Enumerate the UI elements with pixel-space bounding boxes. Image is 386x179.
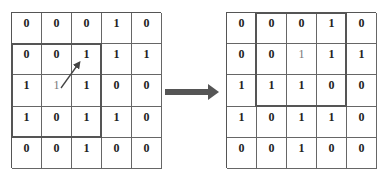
grid-cell: 1	[102, 107, 132, 138]
grid-cell: 0	[257, 44, 287, 75]
grid-cell: 1	[257, 75, 287, 106]
grid-cell: 0	[42, 138, 72, 169]
grid-cell: 1	[317, 13, 347, 44]
grid-cell: 0	[42, 44, 72, 75]
grid-cell: 0	[12, 138, 42, 169]
grid-cell: 0	[227, 138, 257, 169]
grid-cell: 0	[12, 44, 42, 75]
grid-cell: 0	[12, 13, 42, 44]
grid-cell: 0	[257, 13, 287, 44]
grid-cell: 1	[12, 75, 42, 106]
grid-cell: 0	[317, 138, 347, 169]
grid-cell: 0	[347, 75, 377, 106]
grid-cell: 1	[287, 107, 317, 138]
left-grid: 0001000111111001011000100	[11, 12, 161, 168]
grid-cell: 1	[287, 44, 317, 75]
grid-cell: 1	[72, 107, 102, 138]
grid-cell: 0	[102, 138, 132, 169]
grid-cell: 0	[132, 75, 162, 106]
grid-cell: 1	[72, 75, 102, 106]
grid-cell: 0	[227, 44, 257, 75]
grid-cell: 1	[102, 44, 132, 75]
grid-cell: 0	[132, 13, 162, 44]
grid-cell: 1	[317, 107, 347, 138]
grid-cell: 1	[42, 75, 72, 106]
grid-cell: 0	[102, 75, 132, 106]
grid-cell: 1	[287, 138, 317, 169]
grid-cell: 0	[227, 13, 257, 44]
grid-cell: 1	[287, 75, 317, 106]
grid-cell: 0	[317, 75, 347, 106]
grid-cell: 1	[347, 44, 377, 75]
grid-cell: 1	[317, 44, 347, 75]
grid-cell: 0	[132, 138, 162, 169]
grid-cell: 0	[132, 107, 162, 138]
grid-cell: 0	[287, 13, 317, 44]
grid-cell: 0	[347, 138, 377, 169]
grid-cell: 1	[72, 44, 102, 75]
right-grid: 0001000111111001011000100	[226, 12, 376, 168]
grid-cell: 0	[42, 107, 72, 138]
grid-cell: 1	[102, 13, 132, 44]
grid-cell: 0	[72, 13, 102, 44]
grid-cell: 0	[347, 107, 377, 138]
grid-cell: 0	[257, 138, 287, 169]
grid-cell: 1	[12, 107, 42, 138]
grid-cell: 0	[347, 13, 377, 44]
grid-cell: 0	[42, 13, 72, 44]
grid-cell: 1	[72, 138, 102, 169]
grid-cell: 1	[227, 107, 257, 138]
right-arrow-icon	[165, 84, 219, 100]
grid-cell: 1	[132, 44, 162, 75]
grid-cell: 0	[257, 107, 287, 138]
grid-cell: 1	[227, 75, 257, 106]
